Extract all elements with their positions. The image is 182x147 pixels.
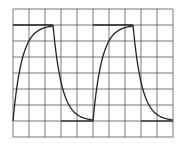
oscilloscope-screen bbox=[0, 0, 182, 147]
